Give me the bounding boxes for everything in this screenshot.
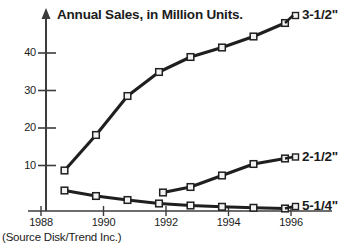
series-line-3-1-2	[61, 20, 288, 174]
chart-plot-area	[0, 0, 345, 250]
y-tick-label-20: 20	[14, 121, 36, 133]
x-tick-label-1992: 1992	[146, 216, 186, 228]
chart-axes	[28, 8, 332, 216]
series-markers-3-1-2	[61, 20, 288, 174]
y-axis-arrow-icon	[42, 8, 51, 19]
x-tick-label-1996: 1996	[271, 216, 311, 228]
chart-title: Annual Sales, in Million Units.	[57, 7, 243, 22]
y-tick-label-10: 10	[14, 159, 36, 171]
series-path-3-1-2	[65, 23, 286, 171]
x-tick-label-1990: 1990	[84, 216, 124, 228]
source-note: (Source Disk/Trend Inc.)	[2, 231, 121, 243]
annual-sales-line-chart: Annual Sales, in Million Units. 40 30 20…	[0, 0, 345, 250]
series-label-3-1-2: 3-1/2"	[302, 7, 338, 22]
y-tick-label-30: 30	[14, 84, 36, 96]
x-tick-label-1994: 1994	[209, 216, 249, 228]
series-line-2-1-2	[160, 155, 289, 196]
series-label-5-1-4: 5-1/4"	[302, 198, 338, 213]
series-label-connectors	[285, 13, 299, 210]
y-tick-label-40: 40	[14, 46, 36, 58]
series-label-2-1-2: 2-1/2"	[302, 149, 338, 164]
x-tick-label-1988: 1988	[21, 216, 61, 228]
